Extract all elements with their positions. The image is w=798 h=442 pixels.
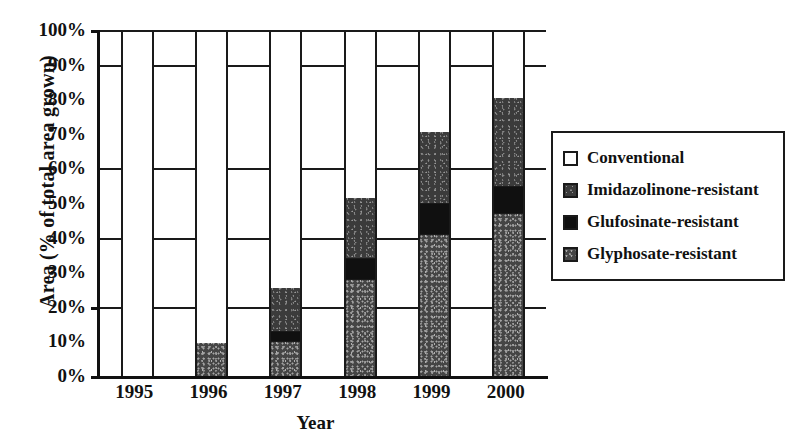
bar-slot — [418, 30, 451, 376]
gridline — [100, 65, 546, 67]
x-axis-title: Year — [88, 412, 543, 434]
legend-item-label: Imidazolinone-resistant — [587, 180, 759, 200]
bar-segment-glufosinate[interactable] — [494, 186, 523, 214]
plot-gridlines — [100, 30, 546, 376]
bar-segment-imidazolinone[interactable] — [346, 196, 375, 258]
x-tick-label: 1997 — [243, 381, 323, 403]
bar-segment-glyphosate[interactable] — [346, 279, 375, 376]
bar-segment-conventional[interactable] — [197, 32, 226, 343]
y-tick-label: 40% — [10, 228, 86, 247]
stacked-bar[interactable] — [418, 30, 451, 376]
x-tick-label: 1998 — [317, 381, 397, 403]
bar-segment-glufosinate[interactable] — [420, 203, 449, 234]
y-tick-label: 10% — [10, 331, 86, 350]
bar-segment-imidazolinone[interactable] — [271, 286, 300, 331]
y-tick-label: 80% — [10, 89, 86, 108]
legend-item-glyphosate[interactable]: Glyphosate-resistant — [563, 238, 783, 270]
stacked-bar[interactable] — [344, 30, 377, 376]
bar-segment-glufosinate[interactable] — [271, 331, 300, 341]
plot-area — [97, 30, 546, 376]
y-tick-label: 50% — [10, 193, 86, 212]
x-tick-label: 1996 — [169, 381, 249, 403]
y-tick-mark — [91, 30, 100, 33]
bar-segment-conventional[interactable] — [494, 32, 523, 98]
bar-slot — [195, 30, 228, 376]
bar-segment-conventional[interactable] — [271, 32, 300, 288]
bar-slot — [492, 30, 525, 376]
bar-slot — [269, 30, 302, 376]
bar-slot — [121, 30, 154, 376]
y-tick-label: 70% — [10, 124, 86, 143]
bar-segment-imidazolinone[interactable] — [420, 130, 449, 203]
legend-item-imidazolinone[interactable]: Imidazolinone-resistant — [563, 174, 783, 206]
bar-segment-glufosinate[interactable] — [346, 258, 375, 279]
gridline — [100, 30, 546, 32]
x-tick-label: 1999 — [392, 381, 472, 403]
bar-segment-glyphosate[interactable] — [271, 341, 300, 376]
stacked-bar[interactable] — [492, 30, 525, 376]
x-tick-label: 2000 — [466, 381, 546, 403]
y-axis-tick-labels: 0%10%20%30%40%50%60%70%80%90%100% — [10, 0, 86, 442]
stacked-bar[interactable] — [195, 30, 228, 376]
y-tick-label: 0% — [10, 366, 86, 385]
legend-item-label: Glufosinate-resistant — [587, 212, 739, 232]
y-tick-label: 30% — [10, 262, 86, 281]
x-axis-line — [96, 376, 548, 379]
chart-legend: ConventionalImidazolinone-resistantGlufo… — [551, 131, 785, 281]
legend-swatch-icon — [563, 215, 578, 230]
bar-segment-glyphosate[interactable] — [420, 234, 449, 376]
bar-segment-conventional[interactable] — [123, 32, 152, 378]
bar-segment-conventional[interactable] — [420, 32, 449, 132]
y-tick-mark — [91, 376, 100, 379]
bar-segment-imidazolinone[interactable] — [494, 96, 523, 186]
legend-swatch-icon — [563, 247, 578, 262]
legend-swatch-icon — [563, 183, 578, 198]
stacked-bar[interactable] — [121, 30, 154, 376]
legend-item-glufosinate[interactable]: Glufosinate-resistant — [563, 206, 783, 238]
legend-item-label: Conventional — [587, 148, 684, 168]
legend-item-conventional[interactable]: Conventional — [563, 142, 783, 174]
legend-item-label: Glyphosate-resistant — [587, 244, 737, 264]
legend-swatch-icon — [563, 151, 578, 166]
y-tick-label: 60% — [10, 158, 86, 177]
stacked-bar[interactable] — [269, 30, 302, 376]
bar-segment-glyphosate[interactable] — [197, 341, 226, 376]
x-tick-label: 1995 — [94, 381, 174, 403]
y-tick-label: 90% — [10, 55, 86, 74]
bar-slot — [344, 30, 377, 376]
bar-segment-glyphosate[interactable] — [494, 213, 523, 376]
gridline — [100, 307, 546, 309]
y-tick-label: 100% — [10, 20, 86, 39]
gridline — [100, 168, 546, 170]
bar-segment-conventional[interactable] — [346, 32, 375, 198]
y-tick-label: 20% — [10, 297, 86, 316]
gridline — [100, 238, 546, 240]
chart-figure: Area (% of total area grown) 0%10%20%30%… — [0, 0, 798, 442]
y-tick-mark — [91, 307, 100, 310]
